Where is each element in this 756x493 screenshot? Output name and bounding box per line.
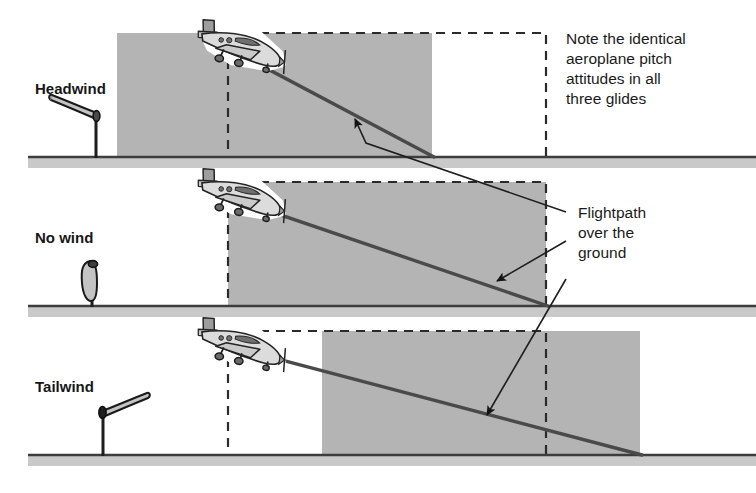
flightpath-label-line-1: Flightpath bbox=[578, 204, 646, 221]
note-line-3: attitudes in all bbox=[566, 70, 661, 87]
flightpath-label-line-2: over the bbox=[578, 224, 634, 241]
panel-tailwind: Tailwind bbox=[28, 316, 756, 466]
panel-no-wind: No wind bbox=[28, 167, 756, 317]
note-line-2: aeroplane pitch bbox=[566, 50, 672, 67]
panel-label-no-wind: No wind bbox=[35, 229, 93, 246]
windsock-no-wind bbox=[82, 261, 98, 307]
ground-band-tailwind bbox=[28, 456, 756, 466]
note-annotation: Note the identical aeroplane pitch attit… bbox=[566, 30, 686, 107]
ground-band-no-wind bbox=[28, 307, 756, 317]
windsock-tailwind bbox=[99, 393, 150, 456]
air-mass-block-tailwind bbox=[322, 331, 640, 455]
windsock-headwind bbox=[49, 95, 100, 158]
ground-band-headwind bbox=[28, 158, 756, 168]
note-line-4: three glides bbox=[566, 90, 646, 107]
panel-label-headwind: Headwind bbox=[35, 80, 106, 97]
glide-wind-diagram: Headwind No wind Tailwind bbox=[0, 0, 756, 493]
note-line-1: Note the identical bbox=[566, 30, 686, 47]
aeroplane-no-wind bbox=[194, 167, 291, 224]
flightpath-label-line-3: ground bbox=[578, 244, 626, 261]
diagram-canvas: Headwind No wind Tailwind bbox=[0, 0, 756, 493]
aeroplane-tailwind bbox=[194, 316, 291, 373]
panel-label-tailwind: Tailwind bbox=[35, 378, 94, 395]
